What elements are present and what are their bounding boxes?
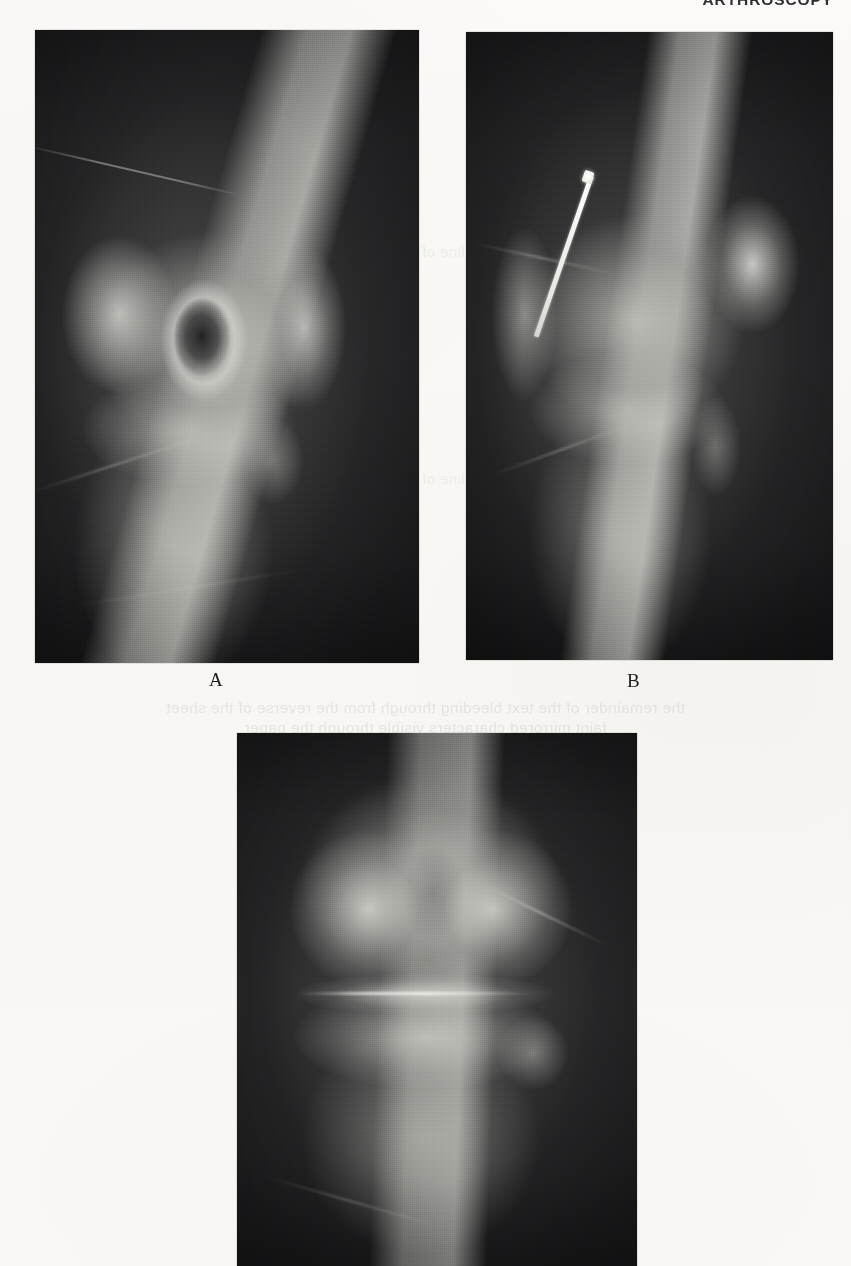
textbook-figure-page: ARTHROSCOPY ghosted line of reversed tex…: [0, 0, 851, 1266]
radiograph-panel-b: [466, 32, 833, 660]
running-header: ARTHROSCOPY: [0, 0, 851, 7]
panel-label-b: B: [627, 671, 640, 690]
running-header-text: ARTHROSCOPY: [703, 0, 833, 7]
radiograph-panel-c: [237, 733, 637, 1266]
bleed-through-text: the remainder of the text bleeding throu…: [0, 699, 851, 717]
joint-line: [293, 992, 541, 995]
radiograph-image-a: [35, 30, 419, 663]
panel-label-a: A: [209, 670, 223, 689]
radiograph-image-b: [466, 32, 833, 660]
radiograph-panel-a: [35, 30, 419, 663]
